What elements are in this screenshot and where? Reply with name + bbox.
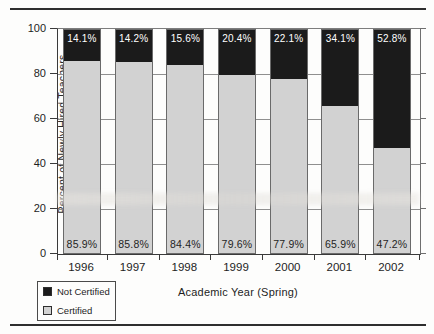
bar-1996: 14.1%85.9% — [63, 29, 101, 254]
y-tick-left-80 — [50, 73, 57, 74]
x-axis-title: Academic Year (Spring) — [88, 286, 388, 298]
certified-value-1998: 84.4% — [167, 238, 203, 250]
y-tick-right-60 — [420, 118, 426, 119]
certified-segment-2001: 65.9% — [322, 106, 358, 253]
not-certified-segment-2002: 52.8% — [374, 30, 410, 148]
not-certified-segment-1999: 20.4% — [219, 30, 255, 75]
x-tick-boundary-2 — [159, 254, 160, 260]
y-tick-left-60 — [50, 118, 57, 119]
y-tick-label-60: 60 — [20, 113, 46, 124]
y-tick-right-0 — [420, 253, 426, 254]
not-certified-segment-2000: 22.1% — [271, 30, 307, 79]
plot-area: 14.1%85.9%14.2%85.8%15.6%84.4%20.4%79.6%… — [57, 28, 421, 255]
y-tick-label-0: 0 — [20, 248, 46, 259]
certified-value-2001: 65.9% — [322, 238, 358, 250]
legend-swatch-certified — [43, 306, 52, 315]
certified-segment-1998: 84.4% — [167, 65, 203, 253]
certified-value-1999: 79.6% — [219, 238, 255, 250]
top-divider — [10, 8, 426, 10]
not-certified-segment-1997: 14.2% — [116, 30, 152, 62]
legend-label-certified: Certified — [57, 305, 92, 316]
y-tick-right-20 — [420, 208, 426, 209]
y-tick-right-40 — [420, 163, 426, 164]
not-certified-segment-1998: 15.6% — [167, 30, 203, 65]
legend: Not Certified Certified — [37, 281, 116, 321]
certified-segment-1999: 79.6% — [219, 75, 255, 253]
y-tick-label-20: 20 — [20, 203, 46, 214]
certified-segment-1997: 85.8% — [116, 62, 152, 253]
not-certified-value-1999: 20.4% — [219, 33, 255, 44]
y-tick-left-0 — [50, 253, 57, 254]
x-tick-label-1998: 1998 — [158, 261, 210, 273]
legend-item-certified: Certified — [43, 305, 110, 316]
y-tick-right-80 — [420, 73, 426, 74]
bar-2001: 34.1%65.9% — [321, 29, 359, 254]
legend-swatch-not-certified — [43, 287, 52, 296]
x-tick-label-1999: 1999 — [210, 261, 262, 273]
x-tick-boundary-4 — [262, 254, 263, 260]
y-tick-label-100: 100 — [20, 23, 46, 34]
bar-2002: 52.8%47.2% — [373, 29, 411, 254]
legend-label-not-certified: Not Certified — [57, 286, 110, 297]
x-tick-end — [419, 254, 420, 260]
not-certified-value-2001: 34.1% — [322, 33, 358, 44]
not-certified-value-1998: 15.6% — [167, 33, 203, 44]
certified-value-2000: 77.9% — [271, 238, 307, 250]
y-tick-left-100 — [50, 28, 57, 29]
x-tick-boundary-5 — [314, 254, 315, 260]
bar-2000: 22.1%77.9% — [270, 29, 308, 254]
y-tick-left-20 — [50, 208, 57, 209]
certified-value-1996: 85.9% — [64, 238, 100, 250]
not-certified-segment-2001: 34.1% — [322, 30, 358, 106]
x-tick-boundary-1 — [107, 254, 108, 260]
x-tick-boundary-3 — [210, 254, 211, 260]
bar-1998: 15.6%84.4% — [166, 29, 204, 254]
certified-segment-2000: 77.9% — [271, 79, 307, 253]
not-certified-value-1997: 14.2% — [116, 33, 152, 44]
legend-item-not-certified: Not Certified — [43, 286, 110, 297]
x-tick-label-1996: 1996 — [55, 261, 107, 273]
certified-value-2002: 47.2% — [374, 238, 410, 250]
y-tick-label-40: 40 — [20, 158, 46, 169]
x-tick-boundary-6 — [365, 254, 366, 260]
not-certified-value-2002: 52.8% — [374, 33, 410, 44]
stacked-bar-chart-figure: Percent of Newly Hired Teachers 14.1%85.… — [0, 0, 434, 334]
y-tick-left-40 — [50, 163, 57, 164]
x-tick-label-1997: 1997 — [107, 261, 159, 273]
x-tick-label-2000: 2000 — [262, 261, 314, 273]
bar-1999: 20.4%79.6% — [218, 29, 256, 254]
x-tick-start — [57, 254, 58, 260]
y-tick-right-100 — [420, 28, 426, 29]
certified-value-1997: 85.8% — [116, 238, 152, 250]
x-tick-label-2001: 2001 — [313, 261, 365, 273]
x-tick-label-2002: 2002 — [365, 261, 417, 273]
y-tick-label-80: 80 — [20, 68, 46, 79]
not-certified-segment-1996: 14.1% — [64, 30, 100, 61]
certified-segment-1996: 85.9% — [64, 61, 100, 253]
certified-segment-2002: 47.2% — [374, 148, 410, 253]
bar-1997: 14.2%85.8% — [115, 29, 153, 254]
not-certified-value-1996: 14.1% — [64, 33, 100, 44]
bottom-divider — [10, 324, 426, 326]
not-certified-value-2000: 22.1% — [271, 33, 307, 44]
